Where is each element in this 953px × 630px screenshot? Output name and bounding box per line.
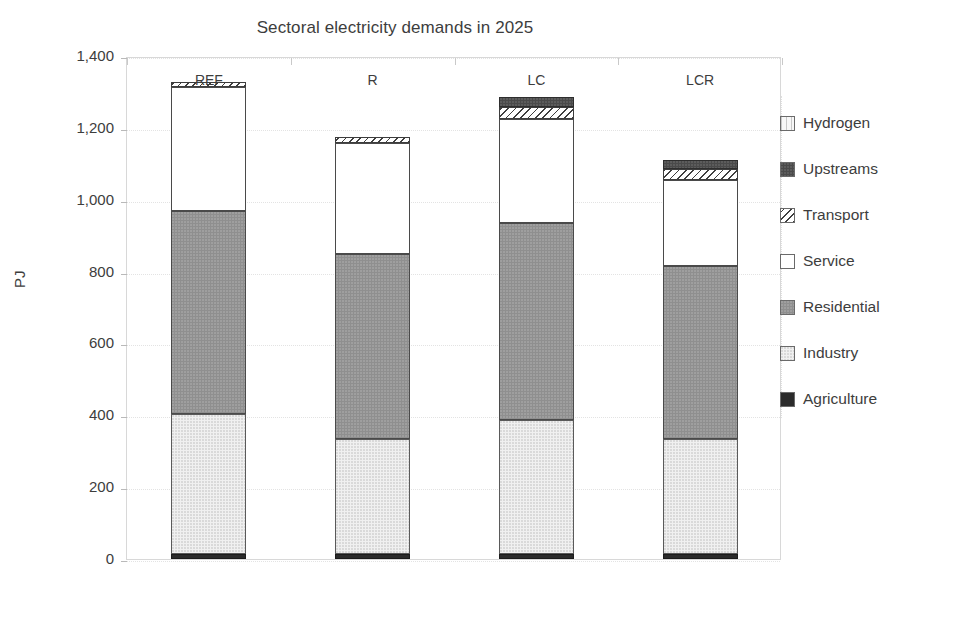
legend-item-agriculture[interactable]: Agriculture: [780, 376, 953, 422]
bar-segment-ref-service[interactable]: [171, 87, 246, 211]
bar-segment-lcr-agriculture[interactable]: [663, 554, 738, 559]
bar-segment-lcr-service[interactable]: [663, 180, 738, 266]
chart-legend: HydrogenUpstreamsTransportServiceResiden…: [780, 100, 953, 422]
bar-segment-r-transport[interactable]: [335, 137, 410, 142]
y-tick-label-400: 400: [28, 407, 114, 422]
legend-swatch-agriculture-icon: [780, 392, 795, 407]
legend-swatch-transport-icon: [780, 208, 795, 223]
y-axis-title: PJ: [11, 270, 28, 288]
y-tick-label-1200: 1,200: [28, 120, 114, 135]
legend-label-transport: Transport: [803, 206, 869, 224]
y-tick-mark-800: [121, 274, 127, 275]
bar-segment-r-industry[interactable]: [335, 439, 410, 554]
legend-label-hydrogen: Hydrogen: [803, 114, 870, 132]
gridline-0: [127, 561, 780, 562]
bar-segment-lc-service[interactable]: [499, 119, 574, 223]
legend-item-upstreams[interactable]: Upstreams: [780, 146, 953, 192]
bar-segment-lc-industry[interactable]: [499, 420, 574, 554]
legend-label-upstreams: Upstreams: [803, 160, 878, 178]
bar-segment-r-service[interactable]: [335, 143, 410, 254]
legend-item-hydrogen[interactable]: Hydrogen: [780, 100, 953, 146]
legend-label-industry: Industry: [803, 344, 858, 362]
y-tick-label-200: 200: [28, 479, 114, 494]
bar-segment-lc-residential[interactable]: [499, 223, 574, 420]
bar-segment-lcr-residential[interactable]: [663, 266, 738, 439]
legend-item-industry[interactable]: Industry: [780, 330, 953, 376]
legend-swatch-industry-icon: [780, 346, 795, 361]
y-tick-label-600: 600: [28, 335, 114, 350]
bar-segment-ref-industry[interactable]: [171, 414, 246, 554]
y-tick-mark-400: [121, 417, 127, 418]
legend-label-agriculture: Agriculture: [803, 390, 877, 408]
chart-title: Sectoral electricity demands in 2025: [0, 18, 790, 38]
bar-lc[interactable]: [499, 56, 574, 559]
y-tick-label-1400: 1,400: [28, 48, 114, 63]
legend-item-residential[interactable]: Residential: [780, 284, 953, 330]
chart-container: Sectoral electricity demands in 2025 PJ …: [0, 0, 953, 630]
legend-swatch-service-icon: [780, 254, 795, 269]
y-tick-label-1000: 1,000: [28, 192, 114, 207]
bar-segment-lcr-industry[interactable]: [663, 439, 738, 554]
bar-segment-lcr-upstreams[interactable]: [663, 160, 738, 169]
bar-lcr[interactable]: [663, 56, 738, 559]
x-tick-label-ref: REF: [149, 72, 269, 88]
legend-item-service[interactable]: Service: [780, 238, 953, 284]
y-tick-mark-1000: [121, 202, 127, 203]
x-tick-mark-0: [127, 58, 128, 65]
y-tick-label-0: 0: [28, 551, 114, 566]
x-tick-label-lcr: LCR: [640, 72, 760, 88]
x-tick-label-lc: LC: [476, 72, 596, 88]
bar-ref[interactable]: [171, 56, 246, 559]
legend-label-residential: Residential: [803, 298, 880, 316]
bar-segment-r-agriculture[interactable]: [335, 554, 410, 559]
legend-swatch-hydrogen-icon: [780, 116, 795, 131]
x-tick-mark-end: [782, 58, 783, 65]
x-tick-label-r: R: [313, 72, 433, 88]
x-tick-mark-1: [291, 58, 292, 65]
y-tick-label-800: 800: [28, 264, 114, 279]
bar-segment-r-residential[interactable]: [335, 254, 410, 439]
legend-swatch-upstreams-icon: [780, 162, 795, 177]
bar-segment-lc-upstreams[interactable]: [499, 97, 574, 108]
y-tick-mark-1200: [121, 130, 127, 131]
bar-segment-ref-agriculture[interactable]: [171, 554, 246, 559]
y-tick-mark-200: [121, 489, 127, 490]
bar-segment-lc-agriculture[interactable]: [499, 554, 574, 559]
legend-label-service: Service: [803, 252, 855, 270]
legend-item-transport[interactable]: Transport: [780, 192, 953, 238]
legend-swatch-residential-icon: [780, 300, 795, 315]
x-tick-mark-3: [618, 58, 619, 65]
bar-r[interactable]: [335, 56, 410, 559]
bar-segment-lc-transport[interactable]: [499, 107, 574, 119]
bar-segment-lcr-transport[interactable]: [663, 169, 738, 180]
y-tick-mark-0: [121, 561, 127, 562]
x-tick-mark-2: [455, 58, 456, 65]
plot-area: REFRLCLCR: [126, 57, 781, 560]
y-tick-mark-600: [121, 345, 127, 346]
bar-segment-ref-residential[interactable]: [171, 211, 246, 414]
